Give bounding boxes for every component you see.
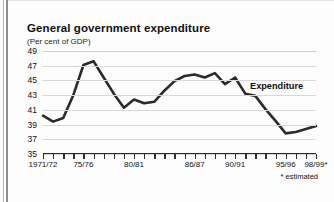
x-tick-13: [174, 154, 175, 159]
footnote-estimated: * estimated: [280, 172, 318, 181]
x-tick-18: [225, 154, 226, 159]
chart-title: General government expenditure: [27, 22, 210, 34]
x-tick-2: [63, 154, 64, 159]
x-tick-10: [144, 154, 145, 159]
x-tick-16: [205, 154, 206, 159]
x-tick-20: [245, 154, 246, 159]
x-tick-5: [94, 154, 95, 159]
x-tick-8: [124, 154, 125, 159]
x-tick-4: [83, 154, 84, 159]
y-tick-label-43: 43: [15, 91, 37, 99]
x-tick-label-24: 95/96: [276, 160, 296, 169]
line-expenditure: [43, 61, 316, 133]
x-tick-3: [73, 154, 74, 159]
x-tick-0: [43, 154, 44, 159]
series-label-expenditure: Expenditure: [250, 81, 303, 91]
x-tick-6: [104, 154, 105, 159]
x-tick-11: [154, 154, 155, 159]
x-tick-19: [235, 154, 236, 159]
x-tick-14: [185, 154, 186, 159]
x-tick-label-15: 86/87: [185, 160, 205, 169]
y-tick-label-35: 35: [15, 150, 37, 158]
x-tick-9: [134, 154, 135, 159]
x-tick-label-4: 75/76: [73, 160, 93, 169]
x-tick-label-0: 1971/72: [29, 160, 58, 169]
top-border-rule: [8, 0, 334, 1]
chart-subtitle: (Per cent of GDP): [27, 37, 91, 46]
left-border-rule-dark: [6, 0, 8, 202]
x-tick-27: [316, 154, 317, 159]
plot-area: [43, 51, 316, 154]
gridline-y-41: [43, 110, 316, 111]
x-tick-label-19: 90/91: [225, 160, 245, 169]
x-tick-label-27: 98/99*: [304, 160, 327, 169]
left-border-rule: [3, 0, 4, 202]
x-tick-7: [114, 154, 115, 159]
x-tick-21: [255, 154, 256, 159]
chart-figure: General government expenditure (Per cent…: [0, 0, 334, 202]
x-tick-26: [306, 154, 307, 159]
x-tick-23: [276, 154, 277, 159]
y-tick-label-41: 41: [15, 106, 37, 114]
y-tick-label-37: 37: [15, 135, 37, 143]
x-tick-12: [164, 154, 165, 159]
gridline-y-39: [43, 125, 316, 126]
y-tick-label-39: 39: [15, 121, 37, 129]
y-tick-label-49: 49: [15, 47, 37, 55]
gridline-y-37: [43, 139, 316, 140]
x-tick-1: [53, 154, 54, 159]
gridline-y-43: [43, 95, 316, 96]
x-tick-25: [296, 154, 297, 159]
x-tick-15: [195, 154, 196, 159]
y-tick-label-47: 47: [15, 62, 37, 70]
gridline-y-47: [43, 66, 316, 67]
x-tick-22: [265, 154, 266, 159]
x-tick-17: [215, 154, 216, 159]
y-tick-label-45: 45: [15, 76, 37, 84]
x-tick-label-9: 80/81: [124, 160, 144, 169]
gridline-y-49: [43, 51, 316, 52]
x-tick-24: [286, 154, 287, 159]
